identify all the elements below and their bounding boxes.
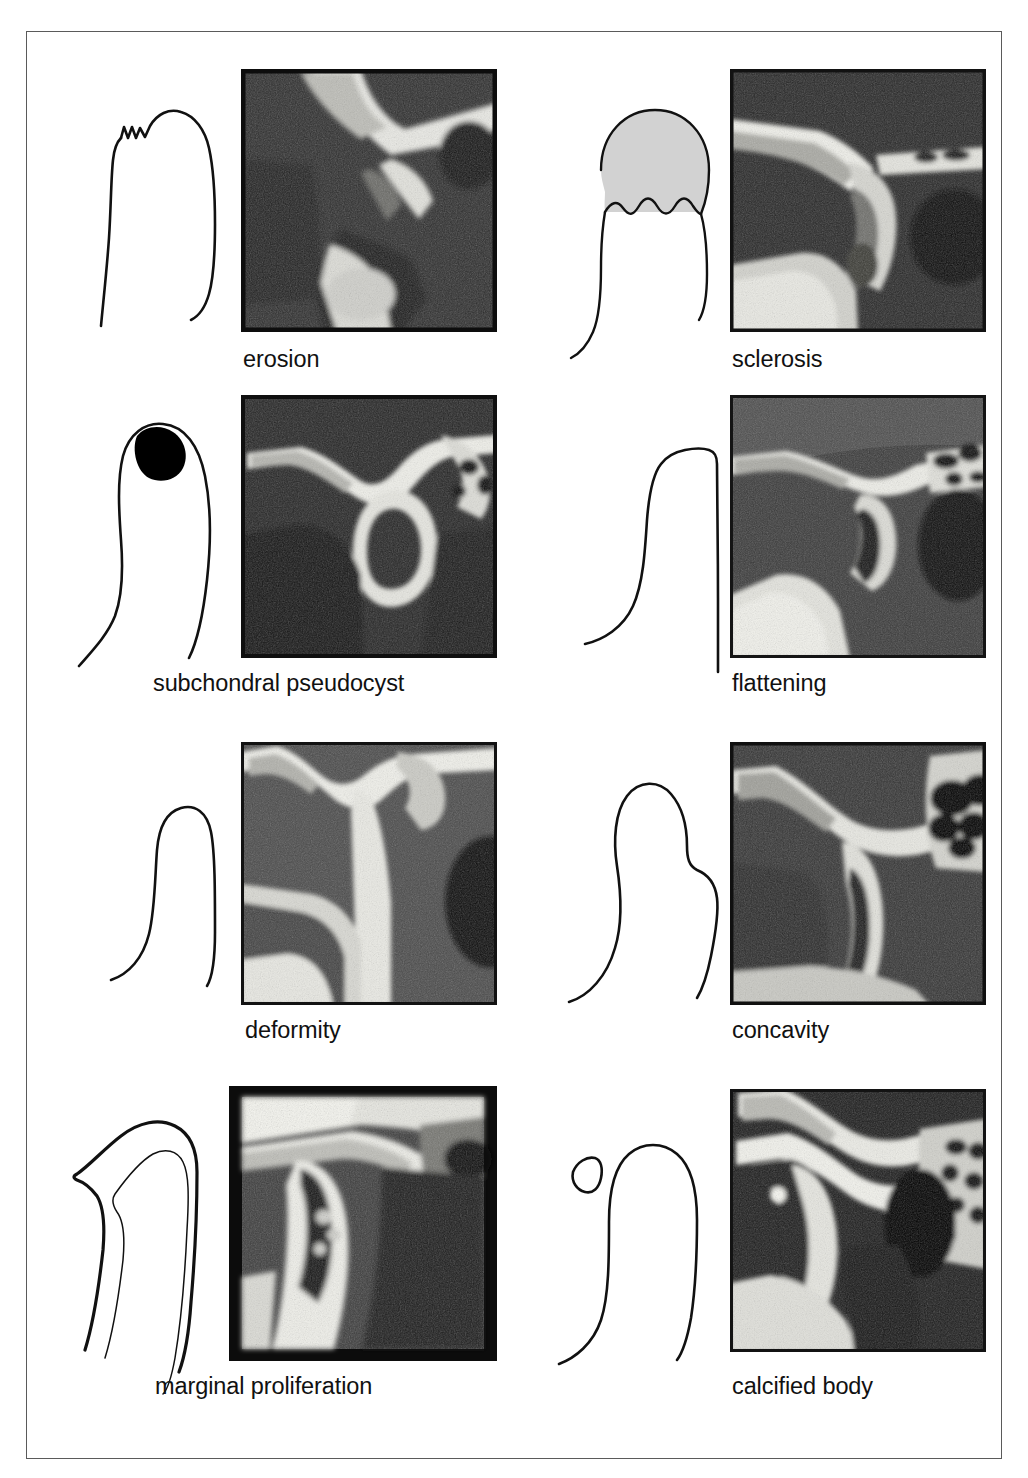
panel-calcified-body: calcified body: [539, 1070, 1003, 1422]
panel-caption-calcified-body: calcified body: [732, 1373, 873, 1400]
radiograph-deformity: [241, 742, 497, 1005]
radiograph-calcified-body: [730, 1089, 986, 1352]
panel-caption-subchondral-pseudocyst: subchondral pseudocyst: [153, 670, 404, 697]
panel-concavity: concavity: [539, 720, 1003, 1072]
panel-caption-erosion: erosion: [243, 346, 319, 373]
panel-caption-concavity: concavity: [732, 1017, 829, 1044]
panel-caption-flattening: flattening: [732, 670, 826, 697]
radiograph-concavity: [730, 742, 986, 1005]
figure-frame: erosion: [26, 31, 1002, 1459]
condyle-outline-subchondral-pseudocyst: [65, 394, 261, 694]
radiograph-flattening: [730, 395, 986, 658]
panel-marginal-proliferation: marginal proliferation: [45, 1070, 509, 1422]
condyle-outline-calcified-body: [553, 1096, 749, 1396]
panel-flattening: flattening: [539, 370, 1003, 722]
panel-subchondral-pseudocyst: subchondral pseudocyst: [45, 370, 509, 722]
radiograph-sclerosis: [730, 69, 986, 332]
panel-deformity: deformity: [45, 720, 509, 1072]
panel-caption-sclerosis: sclerosis: [732, 346, 823, 373]
radiograph-erosion: [241, 69, 497, 332]
panel-caption-deformity: deformity: [245, 1017, 341, 1044]
panel-sclerosis: sclerosis: [539, 38, 1003, 390]
panel-caption-marginal-proliferation: marginal proliferation: [155, 1373, 372, 1400]
panel-erosion: erosion: [45, 38, 509, 390]
radiograph-marginal-proliferation: [229, 1086, 497, 1361]
radiograph-subchondral-pseudocyst: [241, 395, 497, 658]
